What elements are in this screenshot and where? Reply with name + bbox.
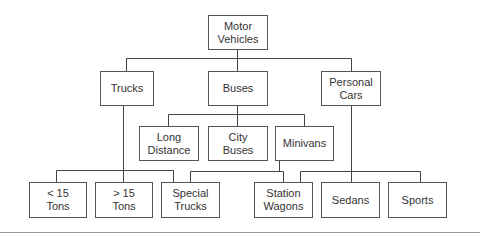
node-city-buses: City Buses [208,126,268,161]
node-label: Sports [402,194,434,207]
node-lt-15-tons: < 15 Tons [29,182,87,218]
node-label: City Buses [223,131,254,157]
node-motor-vehicles: Motor Vehicles [208,15,268,50]
node-station-wagons: Station Wagons [254,182,313,218]
node-special-trucks: Special Trucks [161,182,220,218]
node-label: Sedans [332,194,369,207]
node-label: Station Wagons [264,187,304,213]
node-label: Long Distance [148,131,191,157]
node-label: < 15 Tons [46,187,69,213]
node-label: > 15 Tons [112,187,135,213]
node-sedans: Sedans [321,182,380,218]
node-label: Motor Vehicles [218,20,259,46]
node-label: Personal Cars [329,76,372,102]
node-label: Trucks [111,82,144,95]
bottom-divider [0,232,480,233]
node-label: Minivans [283,137,326,150]
node-gt-15-tons: > 15 Tons [95,182,153,218]
node-sports: Sports [388,182,447,218]
node-label: Buses [223,82,254,95]
node-trucks: Trucks [100,71,154,106]
node-label: Special Trucks [172,187,208,213]
node-long-distance: Long Distance [139,126,199,161]
node-personal-cars: Personal Cars [321,71,381,106]
node-minivans: Minivans [275,126,334,161]
node-buses: Buses [208,71,268,106]
